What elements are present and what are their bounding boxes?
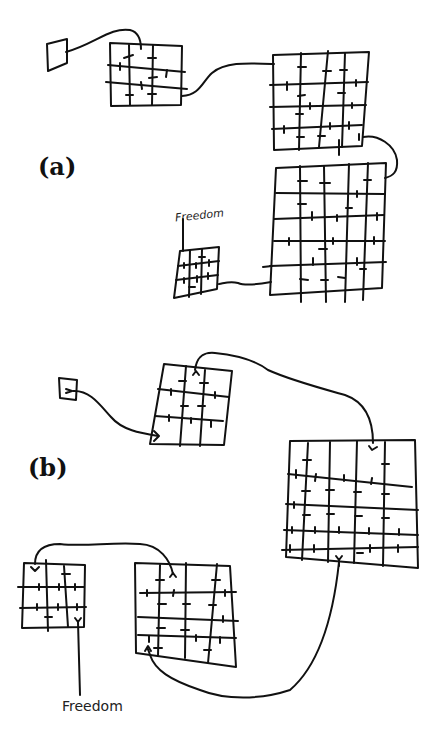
connector-a2 bbox=[182, 63, 274, 96]
connector-b1 bbox=[73, 391, 158, 436]
freedom-grid-b bbox=[18, 560, 86, 695]
connector-b4 bbox=[35, 544, 173, 574]
diagram-canvas bbox=[0, 0, 442, 733]
grid-a3 bbox=[263, 163, 386, 302]
grid-b2 bbox=[282, 440, 418, 568]
grid-a1 bbox=[106, 43, 187, 106]
grid-b1 bbox=[150, 364, 232, 446]
start-arrow-b bbox=[66, 389, 72, 393]
panel-b bbox=[18, 353, 418, 698]
connector-b2 bbox=[195, 353, 373, 443]
arrow-in-b1 bbox=[193, 371, 199, 375]
arrow-in-freedom-grid-b bbox=[31, 567, 39, 571]
freedom-grid-a bbox=[174, 219, 219, 298]
connector-a4 bbox=[219, 282, 271, 285]
connector-b3 bbox=[147, 562, 339, 698]
grid-a2 bbox=[270, 51, 369, 155]
arrow-in-big-grid bbox=[369, 446, 377, 450]
start-square-a bbox=[47, 39, 67, 71]
panel-a bbox=[47, 30, 397, 302]
